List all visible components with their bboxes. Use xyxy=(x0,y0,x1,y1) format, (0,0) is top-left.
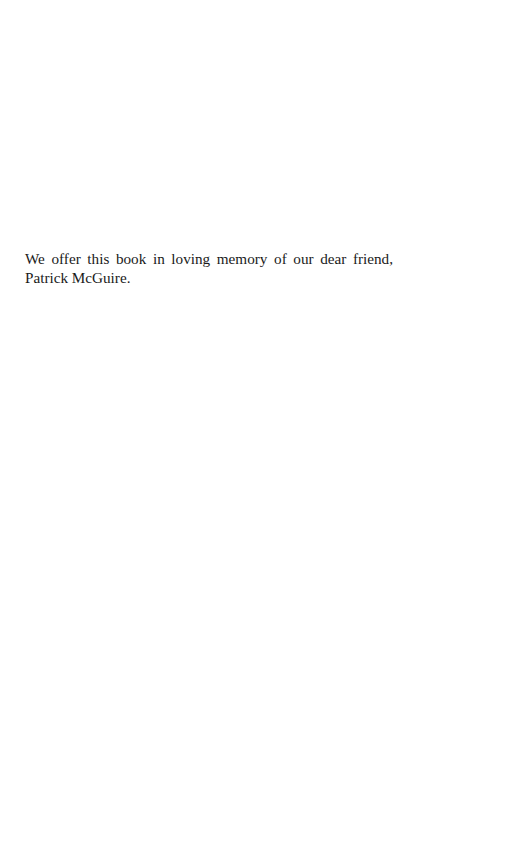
book-page: We offer this book in loving memory of o… xyxy=(0,0,518,865)
dedication-line-one: We offer this book in loving memory of o… xyxy=(25,249,393,268)
dedication-line-two: Patrick McGuire. xyxy=(25,268,393,287)
dedication-block: We offer this book in loving memory of o… xyxy=(25,249,393,288)
dedication-paragraph: We offer this book in loving memory of o… xyxy=(25,249,393,288)
